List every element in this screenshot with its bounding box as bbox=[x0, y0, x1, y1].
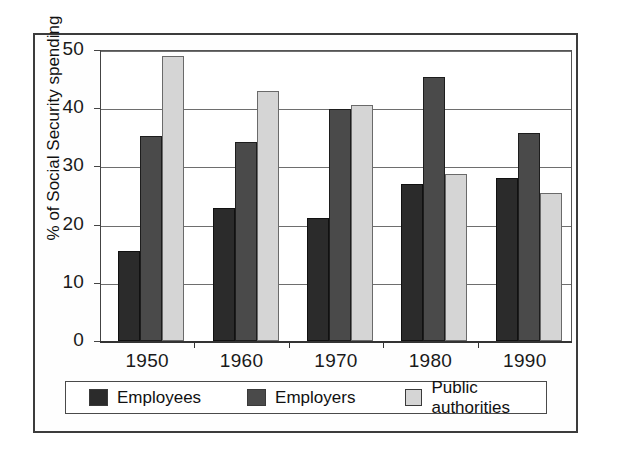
bars-layer bbox=[100, 50, 572, 341]
bar-employers-1980 bbox=[423, 77, 445, 341]
bar-public-authorities-1970 bbox=[351, 105, 373, 341]
legend-label: Public authorities bbox=[431, 378, 546, 418]
legend-swatch-icon bbox=[89, 389, 108, 406]
bar-employers-1990 bbox=[518, 133, 540, 341]
legend-label: Employers bbox=[275, 388, 355, 408]
bar-employers-1950 bbox=[140, 136, 162, 341]
x-axis-line bbox=[100, 341, 572, 343]
bar-employees-1980 bbox=[401, 184, 423, 341]
x-tick-label-1950: 1950 bbox=[107, 350, 187, 372]
bar-employees-1970 bbox=[307, 218, 329, 341]
x-tick-label-1960: 1960 bbox=[202, 350, 282, 372]
legend-swatch-icon bbox=[247, 389, 266, 406]
legend-label: Employees bbox=[117, 388, 201, 408]
x-tick bbox=[194, 341, 195, 348]
chart-figure: % of Social Security spending 0102030405… bbox=[0, 0, 617, 470]
bar-public-authorities-1990 bbox=[540, 193, 562, 341]
y-tick-label: 10 bbox=[44, 271, 84, 293]
x-tick-label-1980: 1980 bbox=[390, 350, 470, 372]
x-tick-label-1970: 1970 bbox=[296, 350, 376, 372]
y-tick-label: 40 bbox=[44, 96, 84, 118]
legend-item-employees[interactable]: Employees bbox=[89, 388, 201, 408]
y-tick-label: 50 bbox=[44, 38, 84, 60]
bar-employees-1960 bbox=[213, 208, 235, 341]
bar-public-authorities-1980 bbox=[445, 174, 467, 341]
legend-swatch-icon bbox=[405, 389, 422, 406]
bar-employees-1950 bbox=[118, 251, 140, 341]
bar-public-authorities-1960 bbox=[257, 91, 279, 341]
x-tick-label-1990: 1990 bbox=[485, 350, 565, 372]
x-tick bbox=[383, 341, 384, 348]
y-tick-label: 30 bbox=[44, 154, 84, 176]
chart-legend: EmployeesEmployersPublic authorities bbox=[65, 381, 547, 414]
x-tick bbox=[478, 341, 479, 348]
y-tick-label: 20 bbox=[44, 213, 84, 235]
legend-item-employers[interactable]: Employers bbox=[247, 388, 355, 408]
bar-employers-1960 bbox=[235, 142, 257, 341]
bar-public-authorities-1950 bbox=[162, 56, 184, 341]
y-tick-label: 0 bbox=[44, 329, 84, 351]
bar-employers-1970 bbox=[329, 109, 351, 341]
bar-employees-1990 bbox=[496, 178, 518, 341]
x-tick bbox=[289, 341, 290, 348]
legend-item-public-authorities[interactable]: Public authorities bbox=[405, 378, 546, 418]
